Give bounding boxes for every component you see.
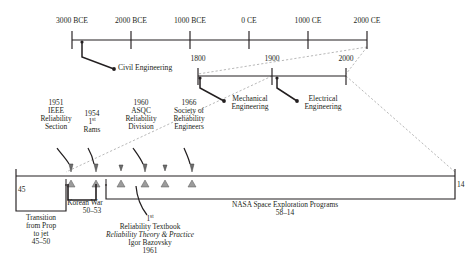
callout-electrical-engineering-line2: Engineering [304, 103, 341, 111]
event-leaders [57, 148, 190, 164]
marker-down-extra-b [119, 165, 123, 171]
projection-lines-lower [66, 76, 455, 172]
callout-electrical-engineering: Electrical Engineering [304, 95, 341, 111]
detail-axis-end-label: 14 [457, 181, 464, 189]
marker-down-1960 [143, 164, 147, 172]
axis-label-2000-ce: 2000 CE [354, 17, 381, 25]
marker-down-1954 [94, 164, 98, 172]
note-reliability-textbook: 1st Reliability Textbook Reliability The… [106, 215, 194, 255]
axis-label-1900: 1900 [264, 55, 279, 63]
leader-1960 [133, 148, 143, 164]
event-1951: 1951 IEEE Reliability Section [40, 99, 71, 131]
leader-1951 [57, 148, 69, 164]
main-axis-group [72, 31, 367, 49]
mechanical-engineering-leader [200, 77, 224, 101]
callout-mechanical-engineering: Mechanical Engineering [231, 95, 268, 111]
projection-line-detail-right [346, 76, 455, 172]
detail-axis-start-label: 45 [18, 186, 25, 194]
note-nasa-space-exploration: NASA Space Exploration Programs 58–14 [232, 201, 338, 217]
event-1954-ordinal-sup: st [92, 116, 95, 122]
leader-1966 [184, 148, 190, 164]
note-reliability-line4: 1961 [106, 247, 194, 255]
event-1954-line2: Rams [84, 126, 101, 134]
electrical-engineering-origin-dot [275, 76, 278, 79]
mechanical-engineering-leader-dot [222, 99, 226, 103]
marker-down-1951 [69, 164, 73, 172]
axis-label-1800: 1800 [190, 55, 205, 63]
axis-label-2000-bce: 2000 BCE [115, 17, 147, 25]
note-transition-prop-to-jet: Transition from Prop to jet 45–50 [26, 214, 56, 246]
marker-up-1960 [141, 180, 149, 187]
reliability-textbook-leader [136, 186, 147, 215]
event-1960: 1960 ASQC Reliability Division [125, 99, 156, 131]
event-1954: 1954 1st Rams [84, 110, 101, 134]
civil-engineering-leader-dot [112, 67, 116, 71]
electrical-engineering-leader [277, 77, 297, 101]
bracket-nasa [106, 184, 455, 199]
timeline-vector-layer [0, 0, 470, 278]
detail-axis-group [16, 169, 455, 184]
marker-up-extra-b [117, 180, 125, 187]
axis-label-3000-bce: 3000 BCE [56, 17, 88, 25]
marker-up-1966 [188, 180, 196, 187]
marker-down-1966 [190, 164, 194, 172]
event-1960-line3: Division [125, 123, 156, 131]
civil-engineering-origin-dot [80, 40, 83, 43]
event-1966-line3: Engineers [173, 123, 204, 131]
note-korean-war: Korean War 50–53 [67, 199, 103, 215]
note-transition-line4: 45–50 [26, 238, 56, 246]
note-reliability-ordinal-sup: st [150, 213, 153, 219]
mechanical-engineering-origin-dot [198, 76, 201, 79]
note-korean-war-line2: 50–53 [67, 207, 103, 215]
marker-up-extra-a [161, 180, 169, 187]
axis-label-0-ce: 0 CE [241, 17, 256, 25]
timeline-diagram: 3000 BCE 2000 BCE 1000 BCE 0 CE 1000 CE … [0, 0, 470, 278]
marker-down-extra-a [163, 165, 167, 171]
axis-label-1000-bce: 1000 BCE [174, 17, 206, 25]
event-markers-down [69, 164, 194, 172]
event-1951-line3: Section [40, 123, 71, 131]
axis-label-2000: 2000 [338, 55, 353, 63]
callout-mechanical-engineering-line2: Engineering [231, 103, 268, 111]
civil-engineering-leader [82, 41, 114, 69]
event-markers-up [67, 180, 196, 187]
electrical-engineering-leader-dot [295, 99, 299, 103]
note-nasa-line2: 58–14 [232, 209, 338, 217]
event-1966: 1966 Society of Reliability Engineers [173, 99, 204, 131]
axis-label-1000-ce: 1000 CE [295, 17, 322, 25]
callout-civil-engineering: Civil Engineering [118, 64, 172, 72]
